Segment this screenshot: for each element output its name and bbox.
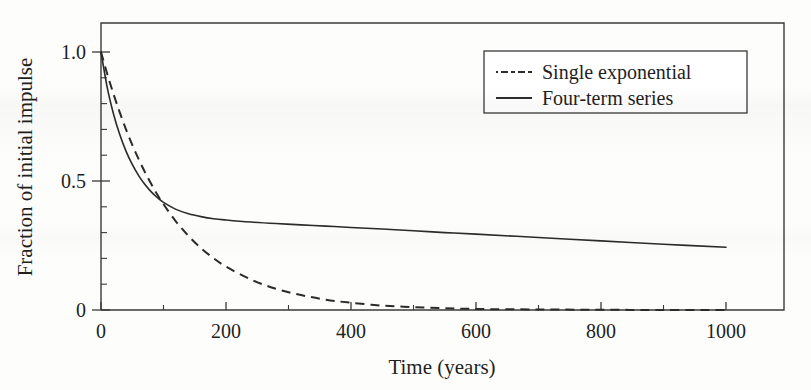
y-axis-tick-labels: 00.51.0 (61, 41, 86, 321)
y-tick-label: 0 (76, 299, 86, 321)
x-tick-label: 600 (461, 320, 491, 342)
y-tick-label: 0.5 (61, 170, 86, 192)
chart-plot: 02004006008001000 00.51.0 Time (years) F… (0, 0, 811, 390)
x-tick-label: 800 (586, 320, 616, 342)
legend-label-single-exponential: Single exponential (542, 61, 692, 84)
legend: Single exponential Four-term series (484, 51, 747, 113)
x-axis-title: Time (years) (388, 355, 495, 379)
x-tick-label: 0 (96, 320, 106, 342)
x-axis-tick-labels: 02004006008001000 (96, 320, 746, 342)
x-axis-ticks (101, 302, 726, 310)
legend-label-four-term-series: Four-term series (542, 87, 673, 109)
y-axis-title: Fraction of initial impulse (13, 58, 37, 277)
figure-canvas: 02004006008001000 00.51.0 Time (years) F… (0, 0, 811, 390)
x-tick-label: 1000 (706, 320, 746, 342)
x-tick-label: 200 (211, 320, 241, 342)
x-tick-label: 400 (336, 320, 366, 342)
y-tick-label: 1.0 (61, 41, 86, 63)
